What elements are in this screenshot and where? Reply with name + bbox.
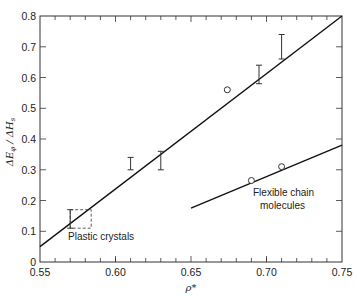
error-bar — [158, 151, 164, 170]
plot-frame — [40, 16, 342, 262]
x-tick-label: 0.60 — [105, 266, 126, 278]
open-circle-point — [224, 87, 230, 93]
error-bars — [67, 35, 284, 229]
x-tick-labels: 0.55 0.60 0.65 0.70 0.75 — [30, 266, 353, 278]
chart-canvas: 0.55 0.60 0.65 0.70 0.75 0 0.1 0.2 0.3 0… — [0, 0, 356, 297]
plastic-crystals-fit-line — [40, 16, 342, 247]
y-tick-label: 0.6 — [21, 72, 36, 84]
x-axis-ticks — [55, 16, 327, 262]
y-tick-label: 0.2 — [21, 195, 36, 207]
flexible-chain-point — [279, 164, 285, 170]
flexible-chain-point — [248, 178, 254, 184]
x-tick-label: 0.75 — [332, 266, 353, 278]
plastic-crystals-dashed-box — [70, 210, 91, 229]
annotation-plastic-crystals: Plastic crystals — [68, 231, 134, 242]
y-tick-label: 0.3 — [21, 164, 36, 176]
error-bar — [279, 35, 285, 60]
y-tick-label: 0.1 — [21, 225, 36, 237]
y-tick-label: 0.5 — [21, 102, 36, 114]
x-tick-label: 0.65 — [181, 266, 202, 278]
y-tick-label: 0 — [30, 256, 36, 268]
flexible-chain-fit-line — [191, 145, 342, 208]
annotation-flexible-chain: Flexible chain — [253, 187, 314, 198]
y-tick-label: 0.7 — [21, 41, 36, 53]
error-bar — [128, 157, 134, 169]
annotation-molecules: molecules — [260, 200, 305, 211]
y-tick-labels: 0 0.1 0.2 0.3 0.4 0.5 0.6 0.7 0.8 — [21, 10, 36, 268]
x-tick-label: 0.70 — [256, 266, 277, 278]
y-axis-title: ΔEφ / ΔHs — [4, 117, 17, 167]
y-tick-label: 0.4 — [21, 133, 36, 145]
y-tick-label: 0.8 — [21, 10, 36, 22]
x-axis-title: ρ* — [185, 282, 197, 293]
